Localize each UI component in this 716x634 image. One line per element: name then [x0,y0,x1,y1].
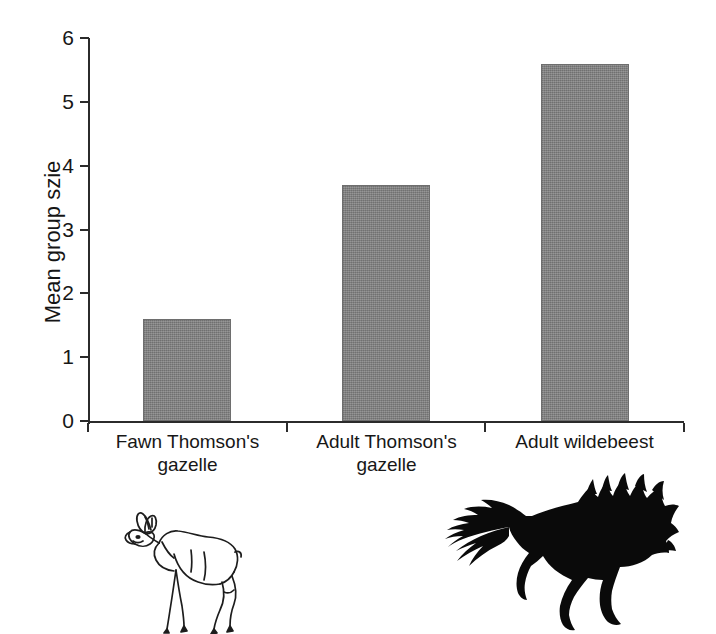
y-axis-tick-label-text: 6 [50,27,74,48]
x-axis-category-label-line: Adult Thomson's [290,430,483,453]
y-axis-tick-label-text: 0 [50,410,74,431]
x-axis-tick [286,423,288,432]
y-axis-tick-label: 6 [50,27,74,48]
y-axis-line [88,38,90,424]
y-axis-tick-label: 0 [50,410,74,431]
y-axis-tick [80,101,89,103]
x-axis-category-label-line: Adult wildebeest [488,430,681,453]
bar [143,319,231,421]
x-axis-tick [683,423,685,432]
y-axis-tick [80,165,89,167]
x-axis-line [88,421,684,423]
bar-chart-figure: 0123456 Mean group szie Fawn Thomson'sga… [0,0,716,634]
x-axis-tick [87,423,89,432]
wildebeest-silhouette [436,470,686,634]
y-axis-tick [80,292,89,294]
gazelle-fawn-line-drawing [118,492,290,634]
x-axis-tick [484,423,486,432]
y-axis-tick [80,37,89,39]
x-axis-category-label: Fawn Thomson'sgazelle [91,430,284,476]
y-axis-tick [80,229,89,231]
bar [342,185,430,421]
y-axis-tick [80,356,89,358]
x-axis-category-label-line: gazelle [91,453,284,476]
bar [541,64,629,421]
y-axis-title: Mean group szie [41,92,65,392]
x-axis-category-label: Adult wildebeest [488,430,681,453]
y-axis-tick [80,420,89,422]
x-axis-category-label-line: Fawn Thomson's [91,430,284,453]
